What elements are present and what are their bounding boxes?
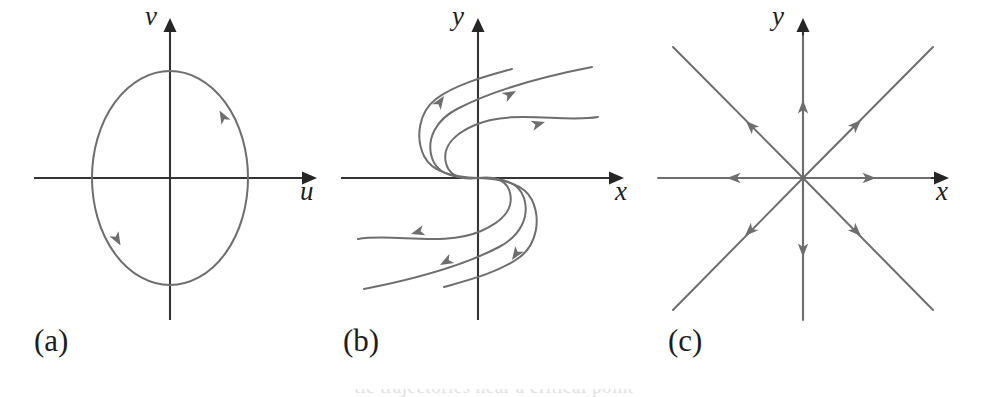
panel-a-axes [34, 18, 317, 320]
panel-c-ray-up-left [673, 47, 803, 178]
panel-c-ray-down-left [673, 178, 803, 310]
panel-b-trajectory-upper-2 [430, 67, 592, 178]
panel-c-label: (c) [668, 323, 702, 358]
panel-c-y-axis-label: y [769, 1, 784, 31]
phase-portrait-figure: u v (a) [0, 0, 988, 397]
panel-b-y-axis-arrowhead [472, 18, 485, 32]
panel-c-x-axis-label: x [935, 176, 948, 206]
figure-canvas: u v (a) [0, 0, 988, 397]
panel-c-rays [658, 36, 933, 320]
panel-a-x-axis-label: u [300, 176, 314, 206]
panel-a: u v (a) [34, 1, 317, 358]
panel-b-trajectory-upper-3 [445, 117, 598, 178]
panel-a-y-axis-label: v [145, 1, 157, 31]
panel-a-y-axis-arrowhead [164, 18, 177, 32]
panel-b-x-axis-label: x [614, 176, 627, 206]
panel-c-y-axis-arrowhead [797, 18, 810, 32]
panel-b-trajectory-lower-3 [358, 178, 511, 239]
panel-b-trajectory-lower-2 [364, 178, 526, 289]
panel-b-flow-arrow-lower-3 [410, 225, 426, 239]
panel-b-y-axis-label: y [449, 1, 464, 31]
panel-a-flow-arrow-lower [109, 231, 125, 248]
panel-c-ray-down-right [803, 178, 933, 310]
panel-a-flow-arrow-upper [215, 108, 231, 125]
panel-b: x y (b) [341, 1, 627, 358]
panel-a-label: (a) [34, 323, 68, 358]
panel-c: x y (c) [658, 1, 949, 358]
panel-c-ray-up-right [803, 47, 933, 178]
panel-b-label: (b) [343, 323, 379, 358]
panel-b-flow-arrow-upper-3 [531, 117, 547, 131]
